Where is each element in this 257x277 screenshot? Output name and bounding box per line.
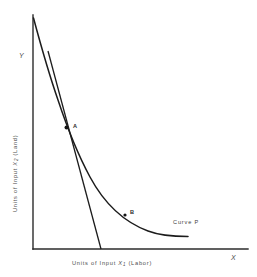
x-axis-name-label: X [231, 254, 236, 261]
x-axis-caption-suffix: (Labor) [126, 260, 152, 266]
y-axis-name-label: Y [19, 52, 24, 59]
curve-p-path [34, 18, 189, 237]
isoquant-chart-svg [0, 0, 257, 277]
y-axis-caption: Units of Input X2 (Land) [13, 135, 19, 212]
y-axis-caption-prefix: Units of Input [12, 166, 18, 212]
y-axis-caption-var: X [12, 161, 18, 166]
point-b-label: B [130, 210, 134, 216]
figure-container: Y X Units of Input X2 (Land) Units of In… [0, 0, 257, 277]
point-b-marker [123, 213, 126, 216]
y-axis-caption-suffix: (Land) [12, 135, 18, 158]
curve-p-label: Curve P [173, 220, 199, 226]
tangent-isocost-line [48, 51, 101, 249]
point-a-marker [65, 126, 69, 130]
y-axis-caption-sub: 2 [14, 158, 19, 161]
x-axis-caption-prefix: Units of Input [72, 260, 118, 266]
point-a-label: A [73, 124, 77, 130]
y-axis-caption-wrapper: Units of Input X2 (Land) [0, 0, 16, 130]
x-axis-caption: Units of Input X1 (Labor) [72, 261, 152, 267]
